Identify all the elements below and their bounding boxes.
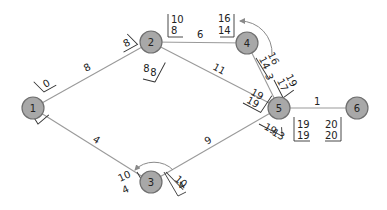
time-box-node5-from3: 19 13 [259, 114, 290, 147]
time-box-node5-from4: 19 17 [274, 70, 302, 97]
node-1: 1 [22, 97, 44, 119]
edge-weight-1-3: 4 [91, 133, 102, 146]
network-diagram: 8 4 6 11 9 3 1 0 6 0 8 10 8 8 8 16 14 16 [0, 0, 387, 210]
time-box-node3-from1-bottom: 4 [120, 183, 130, 196]
edge-1-3 [33, 108, 151, 182]
backward-arc-3 [135, 162, 173, 170]
edge-3-5 [151, 108, 279, 182]
svg-text:8: 8 [150, 67, 156, 78]
edge-1-2 [33, 42, 151, 108]
edge-weight-2-4: 6 [197, 29, 203, 40]
time-box-node2-from1: 8 [117, 32, 138, 52]
time-box-node5-to6: 19 19 [294, 117, 310, 141]
svg-text:16: 16 [218, 13, 231, 24]
time-box-node6-from5: 20 20 [325, 117, 341, 141]
svg-text:4: 4 [244, 38, 250, 49]
svg-text:8: 8 [171, 25, 177, 36]
svg-text:20: 20 [325, 130, 338, 141]
svg-text:5: 5 [276, 103, 282, 114]
node-5: 5 [268, 97, 290, 119]
node-4: 4 [236, 32, 258, 54]
svg-text:19: 19 [297, 130, 310, 141]
edge-weight-5-6: 1 [314, 96, 320, 107]
svg-text:1: 1 [30, 103, 36, 114]
time-box-node3-from1-top: 10 [116, 168, 132, 183]
time-box-node4-from2: 16 14 [218, 13, 234, 37]
edge-weight-3-5: 9 [203, 134, 214, 147]
node-2: 2 [140, 31, 162, 53]
svg-text:14: 14 [218, 25, 231, 36]
edge-2-4 [151, 42, 247, 43]
time-box-node1-to2: 0 [34, 73, 57, 94]
time-box-node2-to5: 8 8 [137, 54, 166, 85]
svg-text:8: 8 [143, 63, 149, 74]
svg-text:19: 19 [297, 119, 310, 130]
svg-text:2: 2 [148, 37, 154, 48]
svg-text:3: 3 [148, 177, 154, 188]
node-3: 3 [140, 171, 162, 193]
svg-text:10: 10 [171, 14, 184, 25]
edge-weight-1-2: 8 [82, 61, 93, 74]
svg-text:8: 8 [121, 37, 132, 50]
node-6: 6 [346, 97, 368, 119]
time-box-node2-to4: 10 8 [168, 14, 184, 37]
svg-text:20: 20 [325, 119, 338, 130]
svg-text:0: 0 [41, 77, 52, 90]
svg-text:6: 6 [354, 103, 360, 114]
